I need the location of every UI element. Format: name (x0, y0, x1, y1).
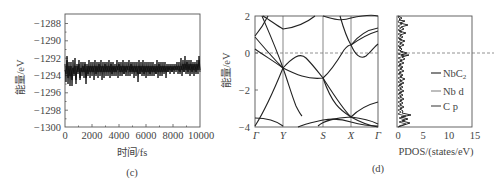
svg-text:8000: 8000 (163, 130, 184, 141)
svg-text:S: S (320, 130, 326, 141)
pdos-legend: NbC2 Nb d C p (431, 68, 467, 112)
svg-text:−1298: −1298 (34, 105, 61, 116)
svg-text:−4: −4 (239, 122, 251, 133)
svg-text:0: 0 (395, 130, 400, 141)
panel-d-band-plot: 2 0 −2 −4 Γ Y S X Γ 能量/eV (220, 11, 382, 141)
kpoint-labels: Γ Y S X Γ (252, 130, 382, 141)
svg-text:10000: 10000 (188, 130, 214, 141)
kpoint-lines (283, 16, 351, 127)
svg-text:−2: −2 (239, 85, 250, 96)
svg-text:−1296: −1296 (34, 87, 61, 98)
svg-text:5: 5 (420, 130, 425, 141)
svg-text:0: 0 (62, 130, 67, 141)
panel-c-plot: −1288 −1290 −1292 −1294 −1296 −1298 −130… (14, 14, 214, 179)
legend-nbc2: NbC2 (443, 68, 467, 81)
svg-text:−1288: −1288 (34, 18, 61, 29)
svg-text:15: 15 (470, 130, 481, 141)
svg-text:−1294: −1294 (34, 70, 62, 81)
panel-d-ylabel: 能量/eV (220, 52, 232, 88)
svg-text:−1290: −1290 (34, 35, 61, 46)
svg-text:Γ: Γ (252, 130, 260, 141)
svg-text:2000: 2000 (82, 130, 103, 141)
figure-canvas: −1288 −1290 −1292 −1294 −1296 −1298 −130… (0, 0, 494, 184)
band-ytick-labels: 2 0 −2 −4 (239, 11, 251, 133)
legend-nb-d: Nb d (443, 86, 464, 97)
svg-text:−1292: −1292 (34, 53, 61, 64)
legend-c-p: C p (443, 101, 458, 112)
svg-text:10: 10 (444, 130, 455, 141)
svg-text:6000: 6000 (136, 130, 157, 141)
panel-c-caption: (c) (126, 167, 138, 179)
pdos-xlabel: PDOS/(states/eV) (398, 146, 474, 158)
panel-d-caption: (d) (372, 163, 385, 175)
svg-text:0: 0 (245, 48, 250, 59)
band-lines (255, 15, 378, 127)
panel-c-xtick-labels: 0 2000 4000 6000 8000 10000 (62, 130, 214, 141)
svg-text:−1300: −1300 (34, 122, 61, 133)
svg-text:X: X (347, 130, 355, 141)
panel-c-ylabel: 能量/eV (14, 59, 26, 95)
svg-text:Γ: Γ (374, 130, 382, 141)
panel-c-xlabel: 时间/fs (117, 146, 148, 158)
panel-c-ytick-labels: −1288 −1290 −1292 −1294 −1296 −1298 −130… (34, 18, 62, 133)
svg-text:4000: 4000 (109, 130, 130, 141)
svg-text:2: 2 (245, 11, 250, 22)
svg-text:Y: Y (280, 130, 287, 141)
panel-d-pdos-plot: NbC2 Nb d C p 0 5 10 15 PDOS/(states/eV)… (372, 16, 494, 175)
pdos-xtick-labels: 0 5 10 15 (395, 130, 480, 141)
